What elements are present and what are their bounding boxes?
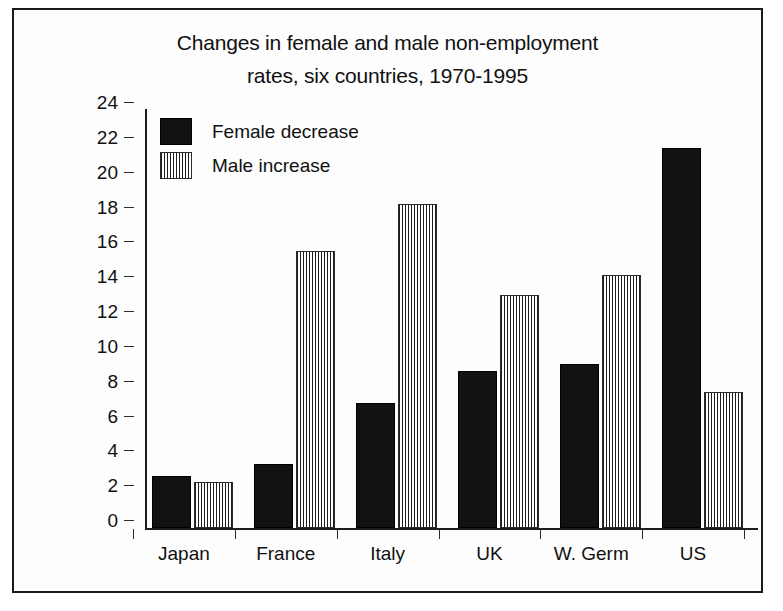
y-axis-tick bbox=[124, 346, 134, 347]
y-axis-tick bbox=[124, 485, 134, 486]
y-axis-tick bbox=[124, 172, 134, 173]
y-axis-tick bbox=[124, 450, 134, 451]
y-axis-tick-label: 18 bbox=[74, 198, 118, 217]
bar-w-germ-male-increase bbox=[602, 275, 641, 528]
y-axis-tick-label: 14 bbox=[74, 267, 118, 286]
chart-legend: Female decrease Male increase bbox=[160, 114, 420, 182]
y-axis-tick bbox=[124, 241, 134, 242]
y-axis-tick-label: 8 bbox=[74, 372, 118, 391]
y-axis-tick-label: 16 bbox=[74, 232, 118, 251]
bar-japan-female-decrease bbox=[152, 476, 191, 528]
x-axis-tick bbox=[235, 529, 236, 539]
x-axis-tick bbox=[439, 529, 440, 539]
bar-italy-female-decrease bbox=[356, 403, 395, 528]
y-axis-tick bbox=[124, 520, 134, 521]
legend-item-male-increase: Male increase bbox=[160, 148, 420, 182]
bar-us-male-increase bbox=[704, 392, 743, 528]
bar-w-germ-female-decrease bbox=[560, 364, 599, 528]
bar-italy-male-increase bbox=[398, 204, 437, 528]
y-axis-tick bbox=[124, 276, 134, 277]
x-axis-tick bbox=[337, 529, 338, 539]
x-axis-tick bbox=[540, 529, 541, 539]
y-axis-tick-label: 20 bbox=[74, 163, 118, 182]
legend-item-female-decrease: Female decrease bbox=[160, 114, 420, 148]
bar-uk-female-decrease bbox=[458, 371, 497, 528]
x-axis-tick bbox=[744, 529, 745, 539]
bar-uk-male-increase bbox=[500, 295, 539, 528]
bar-japan-male-increase bbox=[194, 482, 233, 528]
y-axis-tick-label: 0 bbox=[74, 511, 118, 530]
chart-title-line-2: rates, six countries, 1970-1995 bbox=[14, 59, 761, 92]
y-axis-tick bbox=[124, 137, 134, 138]
y-axis-tick-label: 10 bbox=[74, 337, 118, 356]
solid-black-swatch-icon bbox=[160, 118, 192, 145]
y-axis-tick-label: 6 bbox=[74, 407, 118, 426]
chart-title-line-1: Changes in female and male non-employmen… bbox=[14, 26, 761, 59]
y-axis-tick-label: 4 bbox=[74, 441, 118, 460]
y-axis-tick bbox=[124, 207, 134, 208]
x-axis-category-label: Japan bbox=[133, 543, 235, 565]
legend-label-male-increase: Male increase bbox=[212, 156, 330, 175]
x-axis-category-label: UK bbox=[439, 543, 541, 565]
x-axis-category-label: France bbox=[235, 543, 337, 565]
y-axis-tick-label: 2 bbox=[74, 476, 118, 495]
x-axis-category-label: US bbox=[642, 543, 744, 565]
hatched-gray-swatch-icon bbox=[160, 152, 192, 179]
y-axis-tick-label: 12 bbox=[74, 302, 118, 321]
legend-label-female-decrease: Female decrease bbox=[212, 122, 359, 141]
y-axis-tick-label: 24 bbox=[74, 93, 118, 112]
x-axis-category-label: Italy bbox=[337, 543, 439, 565]
y-axis-tick bbox=[124, 311, 134, 312]
x-axis-category-label: W. Germ bbox=[540, 543, 642, 565]
x-axis-tick bbox=[642, 529, 643, 539]
bar-france-female-decrease bbox=[254, 464, 293, 528]
bar-france-male-increase bbox=[296, 251, 335, 528]
y-axis-tick bbox=[124, 416, 134, 417]
y-axis-tick bbox=[124, 381, 134, 382]
y-axis-tick-label: 22 bbox=[74, 128, 118, 147]
bar-us-female-decrease bbox=[662, 148, 701, 528]
chart-title: Changes in female and male non-employmen… bbox=[14, 26, 761, 92]
page-frame: Changes in female and male non-employmen… bbox=[12, 8, 763, 593]
x-axis-line bbox=[145, 528, 758, 530]
x-axis-tick bbox=[133, 529, 134, 539]
y-axis-tick bbox=[124, 102, 134, 103]
